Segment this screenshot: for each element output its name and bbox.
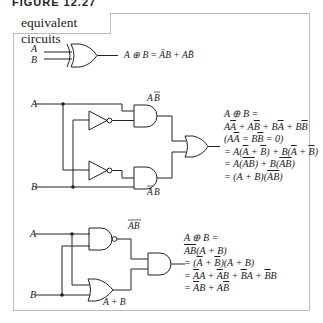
c2-eq-line-4: = AA + AB + BA + BB bbox=[184, 270, 277, 283]
c1-input-b: B bbox=[31, 181, 37, 192]
xor-input-a: A bbox=[30, 43, 38, 54]
xor-input-b: B bbox=[31, 54, 37, 65]
svg-text:AB: AB bbox=[127, 221, 140, 231]
svg-text:A: A bbox=[146, 187, 153, 197]
c1-eq-line-3: (AA = BB = 0) bbox=[224, 133, 318, 146]
circuit-2-derivation: A ⊕ B = AB(A + B) = (A + B)(A + B) = AA … bbox=[184, 232, 277, 295]
xor-expression: A ⊕ B = ĀB + AB̄ bbox=[124, 49, 194, 62]
c2-input-a: A bbox=[29, 228, 37, 239]
c1-eq-line-4: = A(A + B) + B(A + B) bbox=[224, 146, 318, 159]
c2-input-b: B bbox=[30, 289, 36, 300]
c1-eq-line-6: = (A + B)(AB) bbox=[224, 171, 318, 184]
circuit-1 bbox=[35, 104, 220, 189]
c2-eq-line-3: = (A + B)(A + B) bbox=[184, 257, 277, 270]
c1-eq-line-1: A ⊕ B = bbox=[224, 108, 318, 121]
c1-input-a: A bbox=[30, 98, 38, 109]
svg-text:A: A bbox=[146, 93, 153, 103]
c2-eq-line-2: AB(A + B) bbox=[184, 245, 277, 258]
xor-gate-icon bbox=[44, 44, 118, 67]
c2-eq-line-5: = AB + AB bbox=[184, 282, 277, 295]
circuit-2 bbox=[35, 228, 185, 301]
svg-text:A + B: A + B bbox=[102, 297, 126, 307]
svg-text:B: B bbox=[154, 187, 160, 197]
c1-eq-line-2: AA + AB + BA + BB bbox=[224, 121, 318, 134]
svg-text:B: B bbox=[154, 93, 160, 103]
circuit-1-derivation: A ⊕ B = AA + AB + BA + BB (AA = BB = 0) … bbox=[224, 108, 318, 184]
c2-eq-line-1: A ⊕ B = bbox=[184, 232, 277, 245]
c1-eq-line-5: = A(AB) + B(AB) bbox=[224, 158, 318, 171]
